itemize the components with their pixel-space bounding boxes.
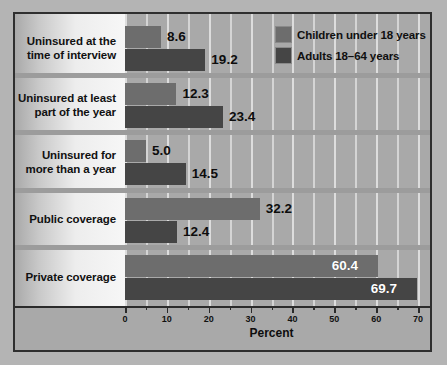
x-axis-tick-major xyxy=(251,306,253,313)
bar-group: Uninsured at leastpart of the year12.323… xyxy=(15,77,430,134)
bar-value-label: 32.2 xyxy=(266,198,292,220)
chart-frame: Uninsured at thetime of interview8.619.2… xyxy=(13,12,432,352)
category-label-line: Public coverage xyxy=(15,213,116,227)
category-label-line: Private coverage xyxy=(15,271,116,285)
bar-adults xyxy=(125,163,186,185)
legend-swatch-children-icon xyxy=(275,26,292,43)
x-axis-tick-label: 70 xyxy=(413,314,423,324)
category-label-line: time of interview xyxy=(15,49,116,63)
x-axis-tick-minor xyxy=(230,306,232,310)
x-axis-tick-major xyxy=(167,306,169,313)
legend-item-children: Children under 18 years xyxy=(275,26,430,43)
category-label-line: Uninsured at least xyxy=(15,92,116,106)
bar-value-label: 8.6 xyxy=(167,26,186,48)
x-axis-tick-major xyxy=(292,306,294,313)
x-axis: 010203040506070 Percent xyxy=(15,306,430,350)
x-axis-tick-label: 10 xyxy=(162,314,172,324)
legend-label-children: Children under 18 years xyxy=(297,29,426,41)
x-axis-tick-major xyxy=(125,306,127,313)
bar-value-label: 69.7 xyxy=(371,278,397,300)
category-label: Private coverage xyxy=(15,271,116,285)
bar-adults xyxy=(125,106,223,128)
legend-item-adults: Adults 18–64 years xyxy=(275,47,430,64)
bar-value-label: 23.4 xyxy=(229,106,255,128)
bar-value-label: 60.4 xyxy=(332,255,358,277)
category-label-line: more than a year xyxy=(15,163,116,177)
category-label: Uninsured at thetime of interview xyxy=(15,35,116,62)
x-axis-tick-minor xyxy=(313,306,315,310)
bar-children xyxy=(125,140,146,162)
legend: Children under 18 years Adults 18–64 yea… xyxy=(275,26,430,68)
x-axis-tick-minor xyxy=(188,306,190,310)
bar-value-label: 19.2 xyxy=(211,49,237,71)
x-axis-tick-label: 40 xyxy=(287,314,297,324)
x-axis-tick-major xyxy=(418,306,420,313)
bar-children xyxy=(125,26,161,48)
category-label: Uninsured formore than a year xyxy=(15,149,116,176)
legend-label-adults: Adults 18–64 years xyxy=(297,50,399,62)
plot-area: Uninsured at thetime of interview8.619.2… xyxy=(15,14,430,350)
x-axis-tick-major xyxy=(334,306,336,313)
x-axis-title: Percent xyxy=(125,326,418,340)
category-label: Public coverage xyxy=(15,213,116,227)
x-axis-tick-minor xyxy=(272,306,274,310)
bar-children xyxy=(125,83,176,105)
x-axis-tick-label: 20 xyxy=(204,314,214,324)
bar-adults xyxy=(125,49,205,71)
x-axis-tick-label: 60 xyxy=(371,314,381,324)
bar-value-label: 5.0 xyxy=(152,140,171,162)
bar-children xyxy=(125,198,260,220)
category-label-line: Uninsured at the xyxy=(15,35,116,49)
category-label-line: part of the year xyxy=(15,106,116,120)
bar-value-label: 12.3 xyxy=(182,83,208,105)
x-axis-tick-label: 50 xyxy=(329,314,339,324)
x-axis-tick-label: 0 xyxy=(122,314,127,324)
bar-group: Uninsured formore than a year5.014.5 xyxy=(15,134,430,191)
category-label-line: Uninsured for xyxy=(15,149,116,163)
bar-value-label: 12.4 xyxy=(183,221,209,243)
x-axis-tick-minor xyxy=(146,306,148,310)
bar-group: Public coverage32.212.4 xyxy=(15,192,430,249)
x-axis-line xyxy=(15,306,430,308)
x-axis-tick-minor xyxy=(355,306,357,310)
bar-adults xyxy=(125,221,177,243)
category-label: Uninsured at leastpart of the year xyxy=(15,92,116,119)
x-axis-tick-major xyxy=(209,306,211,313)
bar-group: Private coverage60.469.7 xyxy=(15,249,430,306)
x-axis-tick-label: 30 xyxy=(246,314,256,324)
x-axis-tick-major xyxy=(376,306,378,313)
x-axis-tick-minor xyxy=(397,306,399,310)
bar-value-label: 14.5 xyxy=(192,163,218,185)
legend-swatch-adults-icon xyxy=(275,47,292,64)
